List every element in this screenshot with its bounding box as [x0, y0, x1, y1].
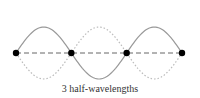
node-point [123, 50, 129, 56]
node-point [13, 50, 19, 56]
node-point [179, 50, 185, 56]
node-point [68, 50, 74, 56]
caption: 3 half-wavelengths [0, 83, 200, 94]
